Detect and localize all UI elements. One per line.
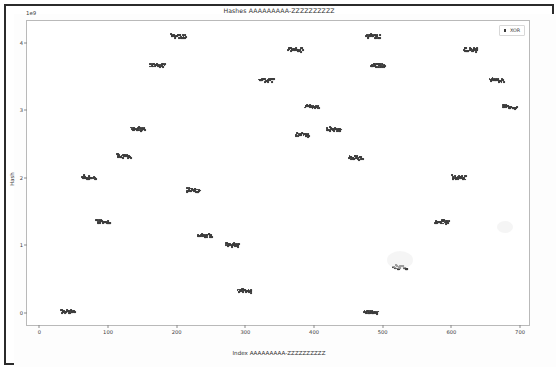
data-point <box>302 49 304 51</box>
data-point <box>74 311 76 313</box>
data-point <box>164 63 166 65</box>
x-tick-mark <box>382 325 383 328</box>
scatter-series-xor <box>27 21 529 325</box>
data-point <box>379 37 381 39</box>
y-tick-label: 4 <box>20 40 23 46</box>
x-tick-mark <box>39 325 40 328</box>
scan-smudge <box>387 251 413 269</box>
data-point <box>448 220 450 222</box>
y-axis-offset-label: 1e9 <box>26 10 36 16</box>
data-point <box>317 105 319 107</box>
data-point <box>162 66 164 68</box>
data-point <box>406 268 408 270</box>
data-point <box>377 66 379 68</box>
data-point <box>273 78 275 80</box>
matplotlib-figure: Hashes AAAAAAAAA-ZZZZZZZZZZ 1e9 Hash Ind… <box>0 0 558 369</box>
data-point <box>516 106 518 108</box>
plot-axes[interactable]: XOR 012340100200300400500600700 <box>26 20 530 326</box>
data-point <box>362 159 364 161</box>
data-point <box>210 234 212 236</box>
x-axis-label: Index AAAAAAAAA-ZZZZZZZZZZ <box>0 350 558 356</box>
data-point <box>185 36 187 38</box>
data-point <box>250 292 252 294</box>
x-tick-mark <box>245 325 246 328</box>
x-tick-label: 400 <box>309 329 319 335</box>
data-point <box>95 178 97 180</box>
data-point <box>211 236 213 238</box>
x-tick-label: 200 <box>172 329 182 335</box>
data-point <box>464 179 466 181</box>
page-title: Hashes AAAAAAAAA-ZZZZZZZZZZ <box>0 7 558 14</box>
data-point <box>199 190 201 192</box>
data-point <box>333 130 335 132</box>
data-point <box>109 222 111 224</box>
data-point <box>238 243 240 245</box>
y-tick-mark <box>24 42 27 43</box>
data-point <box>237 246 239 248</box>
x-tick-label: 0 <box>38 329 41 335</box>
legend-item-label: XOR <box>510 28 520 33</box>
data-point <box>447 222 449 224</box>
data-point <box>329 130 331 132</box>
data-point <box>231 246 233 248</box>
scan-smudge <box>497 221 513 233</box>
y-axis-label: Hash <box>9 159 15 199</box>
x-tick-mark <box>176 325 177 328</box>
data-point <box>250 289 252 291</box>
data-point <box>130 157 132 159</box>
y-tick-label: 0 <box>20 310 23 316</box>
data-point <box>476 48 478 50</box>
y-tick-mark <box>24 110 27 111</box>
data-point <box>384 65 386 67</box>
x-tick-mark <box>108 325 109 328</box>
y-tick-mark <box>24 177 27 178</box>
x-tick-mark <box>314 325 315 328</box>
x-tick-label: 700 <box>515 329 525 335</box>
y-tick-label: 3 <box>20 107 23 113</box>
legend-marker-icon <box>504 29 506 31</box>
data-point <box>271 81 273 83</box>
x-tick-label: 100 <box>103 329 113 335</box>
x-tick-label: 300 <box>240 329 250 335</box>
data-point <box>465 175 467 177</box>
x-tick-label: 600 <box>446 329 456 335</box>
y-tick-mark <box>24 312 27 313</box>
y-tick-mark <box>24 245 27 246</box>
x-tick-label: 500 <box>378 329 388 335</box>
y-tick-label: 2 <box>20 175 23 181</box>
y-tick-label: 1 <box>20 242 23 248</box>
data-point <box>377 311 379 313</box>
legend[interactable]: XOR <box>499 25 525 36</box>
x-tick-mark <box>451 325 452 328</box>
x-tick-mark <box>520 325 521 328</box>
data-point <box>308 135 310 137</box>
data-point <box>503 81 505 83</box>
data-point <box>144 129 146 131</box>
data-point <box>465 47 467 49</box>
screenshot-root: Hashes AAAAAAAAA-ZZZZZZZZZZ 1e9 Hash Ind… <box>0 0 558 369</box>
data-point <box>340 129 342 131</box>
